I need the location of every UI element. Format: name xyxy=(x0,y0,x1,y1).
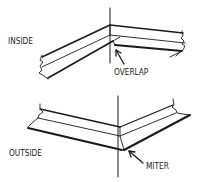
inside-corner-drawing xyxy=(39,8,185,79)
overlap-label: OVERLAP xyxy=(114,67,148,77)
corner-joint-diagram: INSIDE OVERLAP OUTSIDE MITER xyxy=(0,0,202,182)
outside-label: OUTSIDE xyxy=(9,148,42,158)
inside-label: INSIDE xyxy=(8,36,33,46)
miter-label: MITER xyxy=(146,161,169,171)
